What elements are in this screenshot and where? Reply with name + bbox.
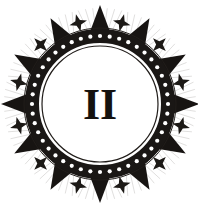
bead-dot [79,167,83,171]
bead-dot [88,169,92,173]
bead-dot [155,65,159,69]
bead-dot [155,139,159,143]
bead-dot [33,121,37,125]
bead-dot [149,146,153,150]
bead-dot [166,102,170,106]
bead-dot [117,37,121,41]
bead-dot [165,92,169,96]
bead-dot [79,37,83,41]
bead-dot [33,83,37,87]
bead-dot [41,139,45,143]
bead-dot [149,57,153,61]
bead-dot [163,83,167,87]
bead-dot [53,153,57,157]
bead-dot [160,74,164,78]
bead-dot [36,130,40,134]
bead-dot [165,112,169,116]
bead-dot [53,51,57,55]
bead-dot [126,164,130,168]
bead-dot [31,92,35,96]
bead-dot [70,164,74,168]
bead-dot [88,35,92,39]
bead-dot [163,121,167,125]
bead-dot [98,170,102,174]
bead-dot [108,35,112,39]
center-numeral-glyph: II [83,80,117,129]
bead-dot [160,130,164,134]
bead-dot [30,102,34,106]
ornamental-emblem-graphic: II [0,0,198,208]
bead-dot [41,65,45,69]
bead-dot [126,40,130,44]
emblem-canvas: II [0,0,198,208]
bead-dot [142,153,146,157]
bead-dot [47,146,51,150]
bead-dot [61,45,65,49]
bead-dot [135,159,139,163]
bead-dot [142,51,146,55]
bead-dot [36,74,40,78]
bead-dot [98,34,102,38]
bead-dot [47,57,51,61]
bead-dot [31,112,35,116]
bead-dot [108,169,112,173]
bead-dot [70,40,74,44]
bead-dot [61,159,65,163]
bead-dot [135,45,139,49]
bead-dot [117,167,121,171]
